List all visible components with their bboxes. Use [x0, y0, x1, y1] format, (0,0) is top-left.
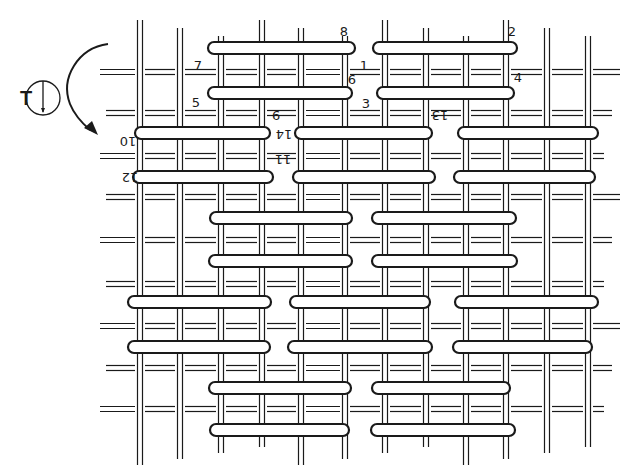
stitch-number-label: 14 [276, 127, 293, 142]
float-stitch [377, 87, 514, 99]
stitch-number-label: 6 [348, 72, 356, 87]
float-stitch [372, 255, 517, 267]
stitch-number-label: 12 [122, 170, 139, 185]
stitch-number-label: 10 [120, 134, 137, 149]
stitch-number-label: 1 [360, 58, 368, 73]
float-stitch [128, 341, 270, 353]
stitch-number-label: 5 [192, 95, 200, 110]
curved-rotation-arrow-icon [67, 44, 108, 135]
float-stitch [208, 87, 352, 99]
float-stitch [128, 296, 271, 308]
float-stitch [208, 42, 355, 54]
float-stitch [372, 212, 516, 224]
stitch-number-label: 2 [508, 24, 516, 39]
float-stitch [288, 341, 432, 353]
stitch-number-label: 13 [432, 108, 449, 123]
float-stitch [373, 42, 517, 54]
stitch-number-label: 4 [514, 70, 522, 85]
float-stitch [455, 296, 598, 308]
stitch-number-label: 7 [194, 58, 202, 73]
float-stitch [453, 341, 592, 353]
float-stitch [135, 127, 270, 139]
float-stitch [209, 255, 352, 267]
float-stitch [210, 212, 352, 224]
float-stitch [293, 171, 435, 183]
float-stitch [209, 382, 351, 394]
weave-diagram: 8271645391314101112 T [0, 0, 631, 475]
orientation-marker: T [20, 44, 108, 135]
float-stitch [295, 127, 432, 139]
float-stitch [290, 296, 430, 308]
float-stitch [372, 382, 510, 394]
stitch-number-label: 11 [275, 152, 292, 167]
float-stitch [133, 171, 273, 183]
float-stitch [210, 424, 349, 436]
stitch-number-label: 8 [340, 24, 348, 39]
float-stitch [458, 127, 598, 139]
float-stitch [454, 171, 595, 183]
stitch-number-label: 3 [362, 96, 370, 111]
stitch-number-label: 9 [272, 108, 280, 123]
float-stitch [371, 424, 515, 436]
